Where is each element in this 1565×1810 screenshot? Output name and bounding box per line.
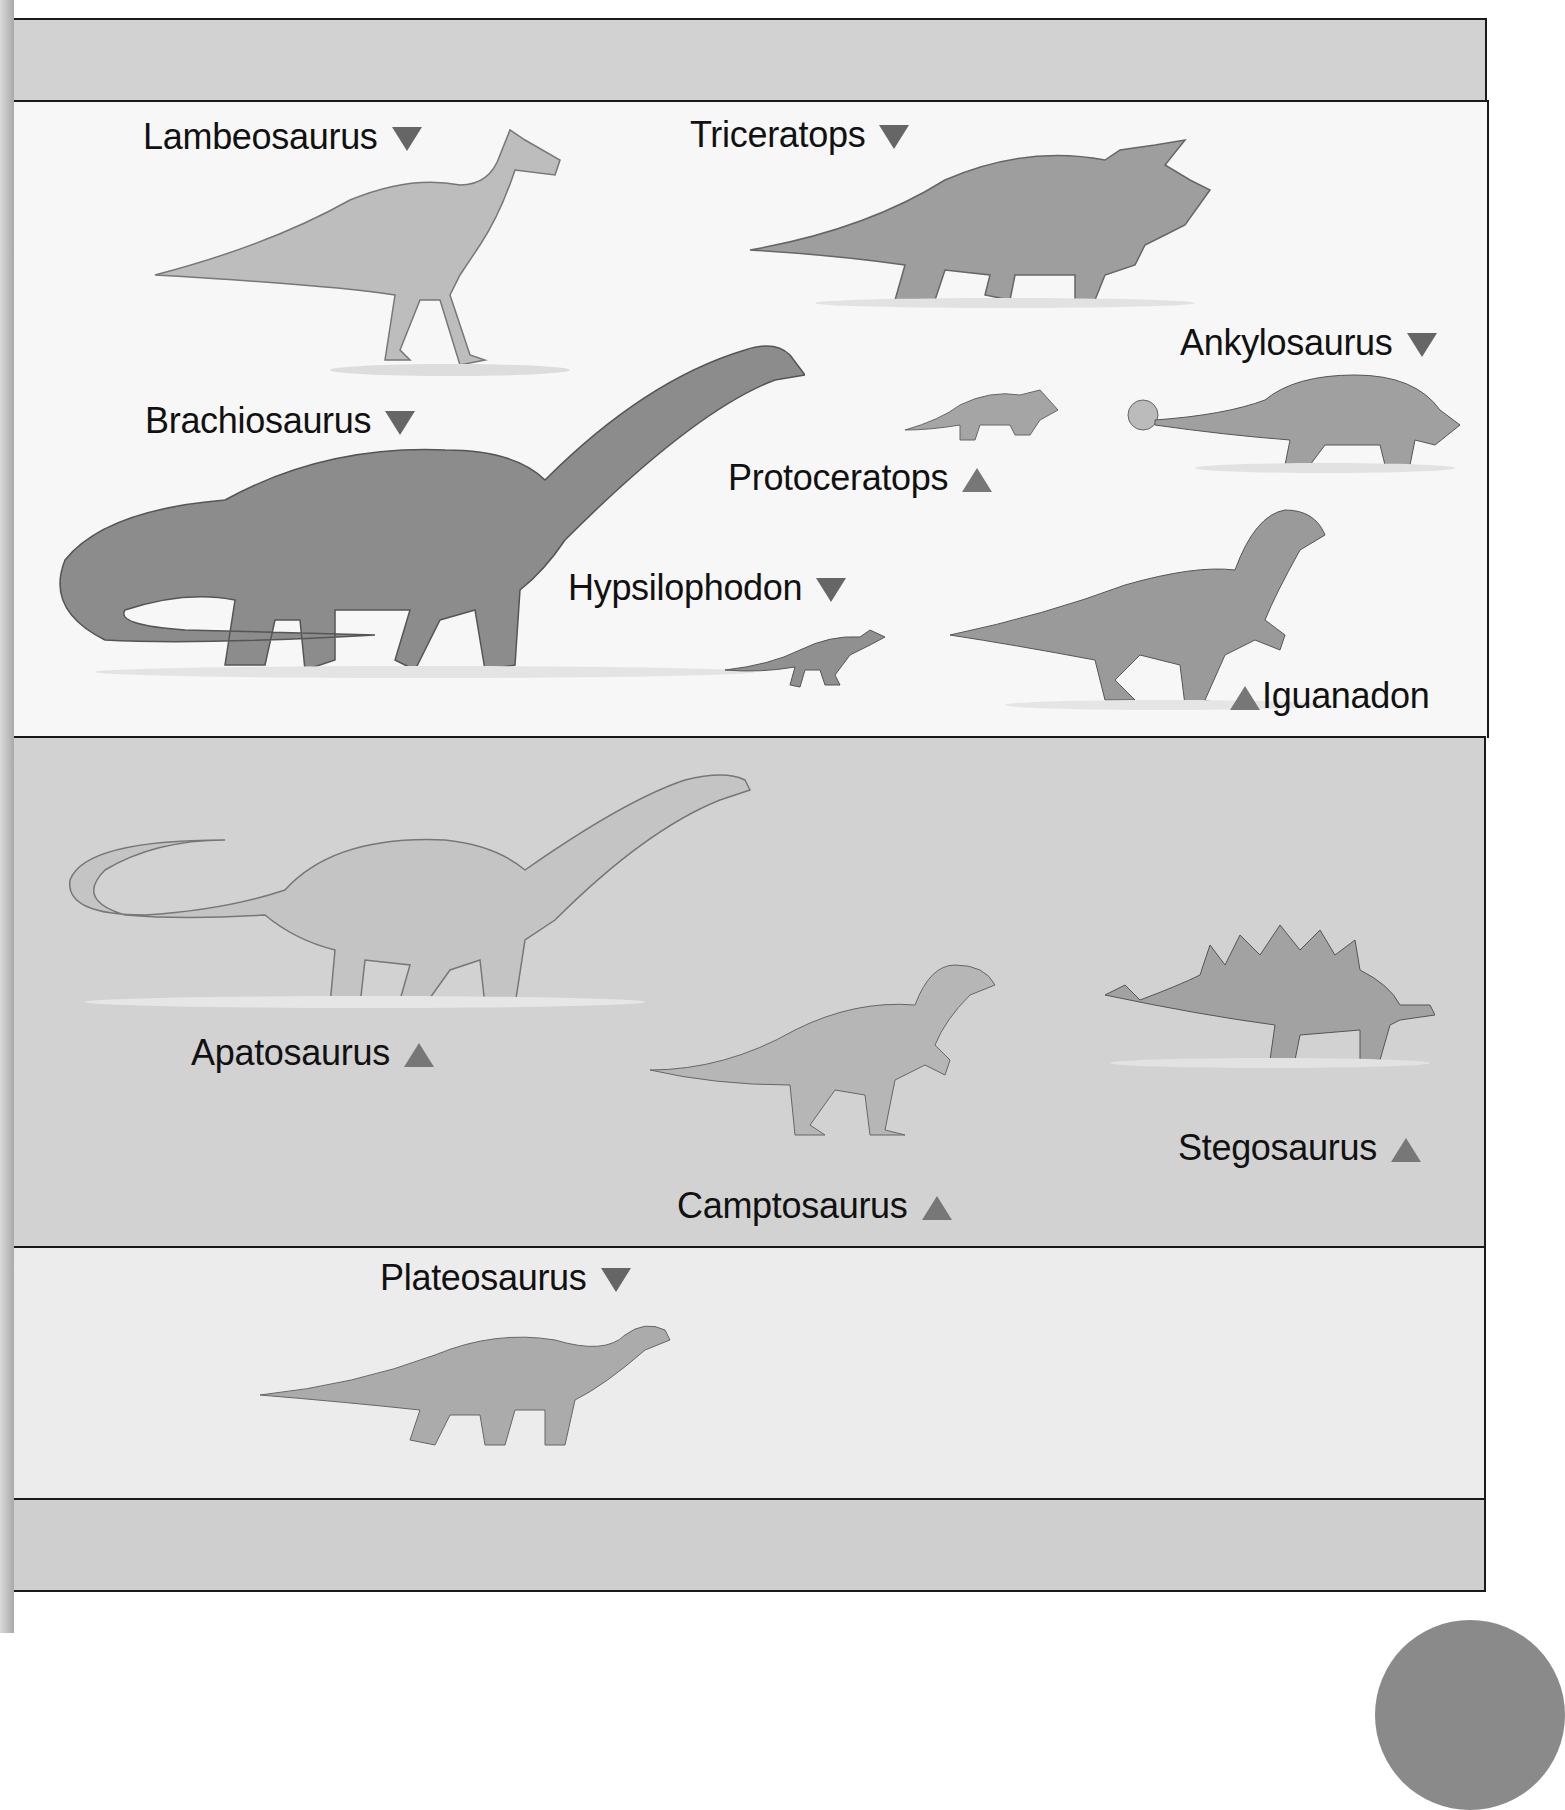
name-text: Ankylosaurus [1180, 322, 1393, 363]
label-triceratops: Triceratops [690, 117, 909, 153]
name-text: Lambeosaurus [143, 116, 378, 157]
label-lambeosaurus: Lambeosaurus [143, 119, 422, 155]
ankylosaurus-illustration [1125, 365, 1465, 475]
triangle-down-icon [816, 578, 846, 602]
stegosaurus-illustration [1100, 925, 1435, 1075]
name-text: Camptosaurus [677, 1185, 908, 1226]
label-camptosaurus: Camptosaurus [677, 1188, 952, 1224]
triangle-up-icon [962, 468, 992, 492]
label-plateosaurus: Plateosaurus [380, 1260, 631, 1296]
band-lower [14, 1246, 1486, 1500]
triangle-up-icon [922, 1196, 952, 1220]
label-stegosaurus: Stegosaurus [1178, 1130, 1421, 1166]
triangle-up-icon [1391, 1138, 1421, 1162]
name-text: Brachiosaurus [145, 400, 371, 441]
name-text: Stegosaurus [1178, 1127, 1377, 1168]
label-ankylosaurus: Ankylosaurus [1180, 325, 1437, 361]
hypsilophodon-illustration [720, 625, 890, 690]
triangle-down-icon [1407, 333, 1437, 357]
label-apatosaurus: Apatosaurus [191, 1035, 434, 1071]
brachiosaurus-illustration [45, 340, 805, 685]
triceratops-illustration [745, 135, 1225, 310]
top-grey-band [14, 18, 1487, 102]
protoceratops-illustration [900, 385, 1060, 445]
triangle-down-icon [385, 411, 415, 435]
triangle-down-icon [601, 1268, 631, 1292]
page-edge-shadow [0, 0, 14, 1633]
triangle-down-icon [879, 125, 909, 149]
name-text: Plateosaurus [380, 1257, 587, 1298]
label-protoceratops: Protoceratops [728, 460, 992, 496]
triangle-up-icon [404, 1043, 434, 1067]
name-text: Apatosaurus [191, 1032, 390, 1073]
name-text: Iguanadon [1262, 675, 1429, 716]
label-hypsilophodon: Hypsilophodon [568, 570, 846, 606]
triangle-up-icon [1230, 686, 1260, 710]
triangle-down-icon [392, 127, 422, 151]
plateosaurus-illustration [255, 1310, 675, 1455]
camptosaurus-illustration [645, 960, 1000, 1145]
name-text: Hypsilophodon [568, 567, 802, 608]
name-text: Triceratops [690, 114, 865, 155]
label-brachiosaurus: Brachiosaurus [145, 403, 415, 439]
label-iguanadon: Iguanadon [1230, 678, 1429, 714]
page-corner-tab [1375, 1620, 1565, 1810]
name-text: Protoceratops [728, 457, 948, 498]
bottom-grey-band [14, 1498, 1486, 1592]
